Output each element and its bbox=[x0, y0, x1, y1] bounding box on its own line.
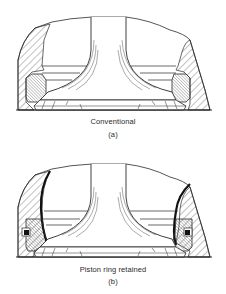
panel-b-label: (b) bbox=[0, 277, 226, 286]
right-piston-ring bbox=[185, 230, 190, 235]
panel-a-label: (a) bbox=[0, 130, 226, 139]
panel-b-caption: Piston ring retained bbox=[0, 265, 226, 274]
figure-panel-b: Piston ring retained (b) bbox=[0, 147, 226, 294]
left-piston-ring bbox=[24, 230, 29, 235]
panel-a-caption: Conventional bbox=[0, 117, 226, 126]
figure-panel-a: Conventional (a) bbox=[0, 0, 226, 147]
valve-head bbox=[34, 100, 186, 110]
valve-head bbox=[34, 247, 186, 257]
